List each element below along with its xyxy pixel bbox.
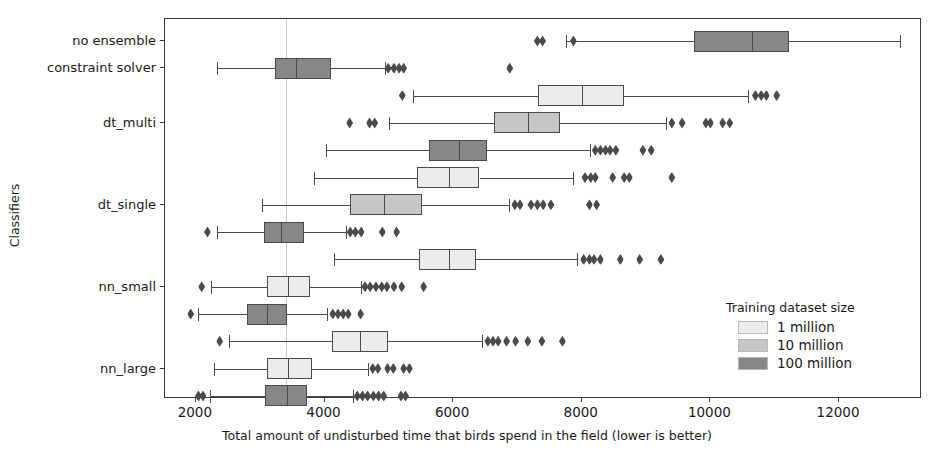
outlier-marker [538,336,545,347]
outlier-marker [390,281,397,292]
outlier-marker [346,117,353,128]
whisker-low [413,96,538,97]
legend-item[interactable]: 1 million [726,319,908,335]
median-line [288,358,289,379]
outlier-marker [204,227,211,238]
whisker-low [214,369,267,370]
cap-low [217,62,218,75]
legend-label-10-million: 10 million [777,337,843,353]
x-tick-label: 12000 [817,404,860,420]
outlier-marker [524,336,531,347]
outlier-marker [374,363,381,374]
cap-low [262,199,263,212]
outlier-marker [540,199,547,210]
median-line [267,304,268,325]
cap-low [210,390,211,403]
median-line [360,331,361,352]
whisker-high [310,287,360,288]
whisker-low [314,178,417,179]
median-line [384,194,385,215]
outlier-marker [506,63,513,74]
outlier-marker [527,199,534,210]
cap-low [229,335,230,348]
median-line [752,31,753,52]
cap-high [361,281,362,294]
x-tick-label: 10000 [688,404,731,420]
cap-high [509,199,510,212]
cap-low [566,35,567,48]
outlier-marker [398,281,405,292]
legend-label-1-million: 1 million [777,319,835,335]
outlier-marker [383,281,390,292]
whisker-high [487,150,590,151]
y-tick-label-no-ensemble: no ensemble [72,33,156,48]
median-line [459,140,460,161]
whisker-high [422,205,509,206]
outlier-marker [406,363,413,374]
outlier-marker [639,145,646,156]
outlier-marker [597,254,604,265]
whisker-low [262,205,350,206]
outlier-marker [636,254,643,265]
cap-low [211,281,212,294]
x-tick-mark [709,398,710,402]
whisker-low [210,396,265,397]
cap-low [413,90,414,103]
x-tick-mark [324,398,325,402]
legend-item[interactable]: 10 million [726,337,908,353]
legend-item[interactable]: 100 million [726,355,908,371]
whisker-high [624,96,749,97]
x-axis-label: Total amount of undisturbed time that bi… [0,428,934,443]
x-tick-label: 2000 [178,404,212,420]
cap-high [368,363,369,376]
box [694,31,789,52]
outlier-marker [657,254,664,265]
box [350,194,422,215]
median-line [449,167,450,188]
y-tick-label-constraint-solver: constraint solver [47,60,156,75]
median-line [582,85,583,106]
cap-high [748,90,749,103]
outlier-marker [719,117,726,128]
legend-swatch-10-million [738,339,768,352]
outlier-marker [400,63,407,74]
whisker-low [229,341,331,342]
whisker-high [287,314,327,315]
cap-high [577,253,578,266]
outlier-marker [679,117,686,128]
outlier-marker [393,227,400,238]
whisker-high [789,41,900,42]
cap-high [346,226,347,239]
outlier-marker [345,309,352,320]
outlier-marker [495,336,502,347]
median-line [288,276,289,297]
median-line [449,249,450,270]
cap-high [482,335,483,348]
median-line [528,112,529,133]
whisker-high [560,123,666,124]
whisker-low [334,259,419,260]
outlier-marker [609,172,616,183]
box [267,358,312,379]
y-tick-mark [160,368,164,369]
outlier-marker [592,172,599,183]
y-axis-label: Classifiers [7,184,22,248]
cap-high [900,35,901,48]
outlier-marker [512,336,519,347]
y-tick-mark [160,286,164,287]
x-tick-label: 6000 [435,404,469,420]
outlier-marker [399,90,406,101]
x-tick-mark [195,398,196,402]
boxplot-figure: Classifiers 20004000600080001000012000no… [0,0,934,469]
outlier-marker [199,390,206,401]
outlier-marker [773,90,780,101]
outlier-marker [420,281,427,292]
cap-high [666,117,667,130]
legend-title: Training dataset size [726,300,908,315]
y-tick-label-nn-small: nn_small [98,278,156,293]
median-line [281,222,282,243]
whisker-low [326,150,429,151]
outlier-marker [402,390,409,401]
x-tick-mark [452,398,453,402]
x-tick-mark [581,398,582,402]
